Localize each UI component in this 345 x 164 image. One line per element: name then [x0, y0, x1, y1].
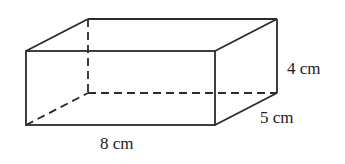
rectangular-prism-diagram: 4 cm 5 cm 8 cm	[0, 0, 345, 164]
width-label: 5 cm	[260, 108, 294, 127]
front-face	[26, 51, 215, 125]
length-label: 8 cm	[100, 134, 134, 153]
edge-top-right-depth	[215, 19, 277, 51]
hidden-edges	[26, 19, 277, 125]
visible-edges	[26, 19, 277, 125]
edge-top-left-depth	[26, 19, 88, 51]
hidden-edge-bottom-left-depth	[26, 93, 88, 125]
dimension-labels: 4 cm 5 cm 8 cm	[100, 59, 321, 153]
height-label: 4 cm	[287, 59, 321, 78]
